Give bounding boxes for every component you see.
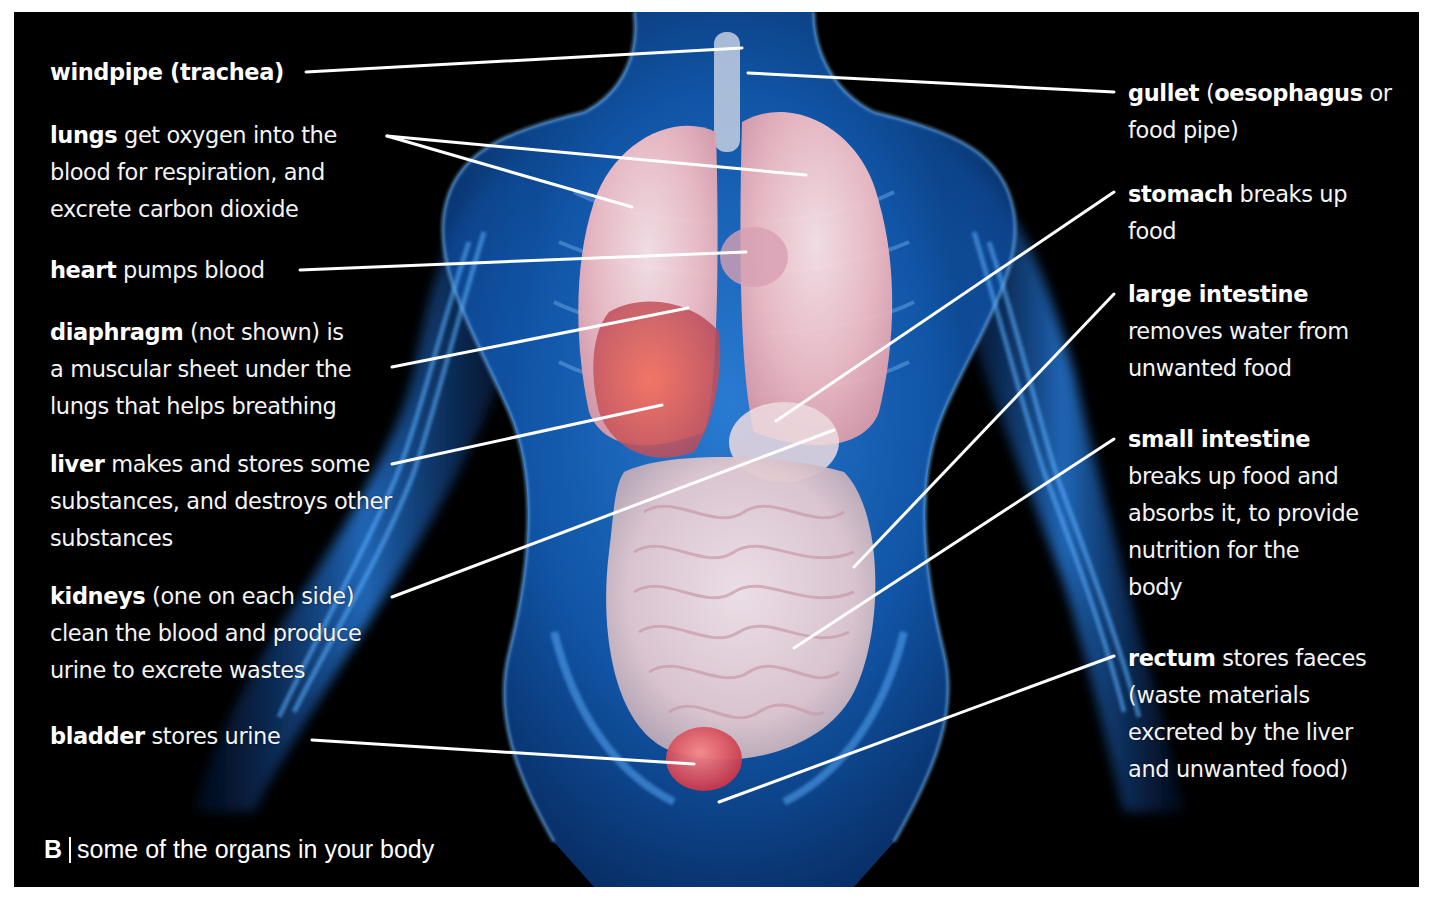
term-lungs: lungs (50, 122, 117, 148)
caption-text: some of the organs in your body (77, 835, 434, 863)
label-liver: liver makes and stores some substances, … (50, 446, 392, 557)
term-oesophagus: oesophagus (1214, 80, 1362, 106)
term-bladder: bladder (50, 723, 145, 749)
label-windpipe: windpipe (trachea) (50, 54, 284, 91)
label-stomach: stomach breaks up food (1128, 176, 1347, 250)
label-gullet: gullet (oesophagus or food pipe) (1128, 75, 1392, 149)
term-stomach: stomach (1128, 181, 1233, 207)
term-gullet: gullet (1128, 80, 1199, 106)
term-small-intestine: small intestine (1128, 426, 1310, 452)
label-diaphragm: diaphragm (not shown) is a muscular shee… (50, 314, 351, 425)
label-heart: heart pumps blood (50, 252, 265, 289)
term-heart: heart (50, 257, 116, 283)
term-liver: liver (50, 451, 104, 477)
term-large-intestine: large intestine (1128, 281, 1308, 307)
label-lungs: lungs get oxygen into the blood for resp… (50, 117, 337, 228)
caption-divider (69, 837, 71, 863)
term-kidneys: kidneys (50, 583, 145, 609)
label-small-intestine: small intestine breaks up food and absor… (1128, 421, 1359, 606)
figure-caption: Bsome of the organs in your body (44, 834, 434, 864)
organs-figure: windpipe (trachea) lungs get oxygen into… (14, 12, 1419, 887)
term-windpipe: windpipe (trachea) (50, 59, 284, 85)
caption-letter: B (44, 835, 62, 863)
term-rectum: rectum (1128, 645, 1216, 671)
label-large-intestine: large intestine removes water from unwan… (1128, 276, 1349, 387)
label-rectum: rectum stores faeces (waste materials ex… (1128, 640, 1366, 788)
term-diaphragm: diaphragm (50, 319, 183, 345)
label-bladder: bladder stores urine (50, 718, 280, 755)
label-kidneys: kidneys (one on each side) clean the blo… (50, 578, 361, 689)
